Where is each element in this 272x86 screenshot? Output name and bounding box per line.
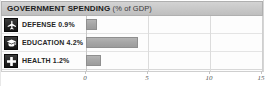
x-axis-label-0: 0 bbox=[83, 74, 87, 82]
row-label-defense: DEFENSE 0.9% bbox=[22, 16, 75, 34]
bar-education[interactable] bbox=[86, 37, 138, 48]
chart-title-unit: (% of GDP) bbox=[113, 4, 152, 13]
x-axis-label-5: 5 bbox=[145, 74, 149, 82]
gridline-10 bbox=[210, 16, 211, 72]
chart-header: GOVERNMENT SPENDING (% of GDP) bbox=[1, 1, 263, 16]
x-axis-line bbox=[1, 71, 263, 72]
row-label-education: EDUCATION 4.2% bbox=[22, 34, 83, 52]
medical-cross-icon bbox=[4, 54, 18, 68]
plot-area bbox=[85, 16, 263, 72]
x-axis-label-15: 15 bbox=[258, 74, 265, 82]
bar-defense[interactable] bbox=[86, 19, 97, 30]
chart-title: GOVERNMENT SPENDING (% of GDP) bbox=[2, 5, 152, 13]
government-spending-chart-widget: GOVERNMENT SPENDING (% of GDP) DEFENSE 0… bbox=[0, 0, 272, 86]
row-label-health: HEALTH 1.2% bbox=[22, 52, 69, 70]
chart-body: DEFENSE 0.9% EDUCATION 4.2% bbox=[1, 16, 263, 72]
x-axis-label-10: 10 bbox=[206, 74, 213, 82]
graduation-cap-icon bbox=[4, 36, 18, 50]
fighter-jet-icon bbox=[4, 18, 18, 32]
x-axis: 0 5 10 15 bbox=[1, 71, 263, 86]
bar-health[interactable] bbox=[86, 55, 101, 66]
frame-right-edge bbox=[263, 0, 264, 72]
chart-rows: DEFENSE 0.9% EDUCATION 4.2% bbox=[2, 16, 262, 72]
chart-title-text: GOVERNMENT SPENDING bbox=[7, 4, 110, 13]
gridline-5 bbox=[148, 16, 149, 72]
